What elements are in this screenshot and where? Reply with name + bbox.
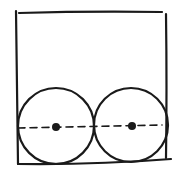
left-center-dot [52,123,60,131]
right-center-dot [128,122,136,130]
box-top-edge [19,12,162,13]
diagram-canvas [0,0,178,174]
box-left-edge [16,11,18,164]
center-line [18,125,162,128]
